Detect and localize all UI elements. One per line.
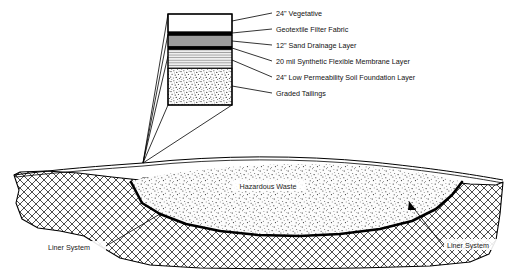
leader-sand-drainage: [232, 41, 272, 45]
leader-soil-foundation: [232, 60, 272, 77]
leader-synthetic-membrane: [232, 48, 272, 61]
diagram-canvas: Hazardous Waste Liner System Liner Syste…: [0, 0, 517, 275]
cap-profile-column: [168, 14, 232, 105]
leader-geotextile: [232, 29, 272, 33]
label-sand-drainage: 12" Sand Drainage Layer: [276, 41, 357, 50]
label-soil-foundation: 24" Low Permeability Soil Foundation Lay…: [276, 73, 416, 82]
layer-geotextile: [168, 32, 232, 36]
label-vegetative: 24" Vegetative: [276, 9, 322, 18]
cross-section-group: Hazardous Waste Liner System Liner Syste…: [14, 157, 508, 269]
liner-right-label: Liner System: [447, 241, 489, 250]
layer-graded-tailings: [168, 68, 232, 105]
label-graded-tailings: Graded Tailings: [276, 89, 326, 98]
callout-connector-left-inner: [143, 34, 168, 163]
label-geotextile: Geotextile Filter Fabric: [276, 25, 349, 34]
layer-synthetic-membrane: [168, 47, 232, 50]
layer-vegetative: [168, 14, 232, 32]
callout-label-group: 24" Vegetative Geotextile Filter Fabric …: [232, 9, 416, 98]
hazardous-waste-label: Hazardous Waste: [240, 182, 297, 191]
layer-sand-drainage: [168, 36, 232, 47]
callout-connector-left-base: [143, 105, 168, 163]
label-synthetic-membrane: 20 mil Synthetic Flexible Membrane Layer: [276, 57, 410, 66]
liner-left-label: Liner System: [48, 243, 90, 252]
layer-soil-foundation: [168, 50, 232, 69]
callout-connector-right: [143, 105, 232, 163]
leader-vegetative: [232, 13, 272, 21]
leader-graded-tailings: [232, 86, 272, 93]
callout-connector-left: [143, 14, 168, 163]
callout-connector-left-inner2: [143, 56, 168, 163]
landfill-cross-section-diagram: Hazardous Waste Liner System Liner Syste…: [0, 0, 517, 275]
